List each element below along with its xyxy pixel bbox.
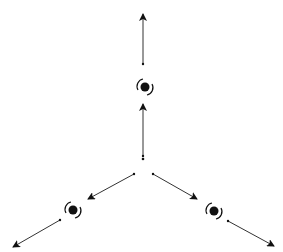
galaxy-lower-left-icon <box>65 202 81 218</box>
galaxy-core-icon <box>210 207 219 216</box>
galaxy-up-icon <box>137 79 153 95</box>
arrow-lower-left-inner <box>88 174 134 199</box>
arrows-layer <box>13 14 274 247</box>
arrow-lower-right-outer <box>228 221 274 246</box>
arrow-lower-left-inner-origin-dot <box>133 173 135 175</box>
arrow-lower-right-inner-origin-dot <box>152 173 154 175</box>
arrow-lower-right-outer-origin-dot <box>227 220 229 222</box>
arrow-up-outer-origin-dot <box>142 63 144 65</box>
arrow-lower-right-inner <box>153 174 197 199</box>
galaxy-core-icon <box>141 83 150 92</box>
arrow-lower-left-outer <box>13 220 60 247</box>
expansion-diagram <box>0 0 283 252</box>
galaxy-lower-right-icon <box>206 203 222 219</box>
center-point <box>142 158 145 161</box>
arrow-up-inner-origin-dot <box>142 155 144 157</box>
arrow-lower-left-outer-origin-dot <box>59 219 61 221</box>
galaxy-core-icon <box>69 206 78 215</box>
